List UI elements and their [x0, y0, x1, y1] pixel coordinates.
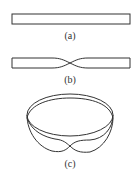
figure-diagram — [0, 0, 140, 174]
mobius-band-c — [27, 94, 113, 152]
strip-a — [12, 14, 130, 24]
twisted-strip-b — [12, 58, 130, 68]
label-c: (c) — [50, 158, 90, 169]
label-b: (b) — [50, 74, 90, 85]
label-a: (a) — [50, 30, 90, 41]
